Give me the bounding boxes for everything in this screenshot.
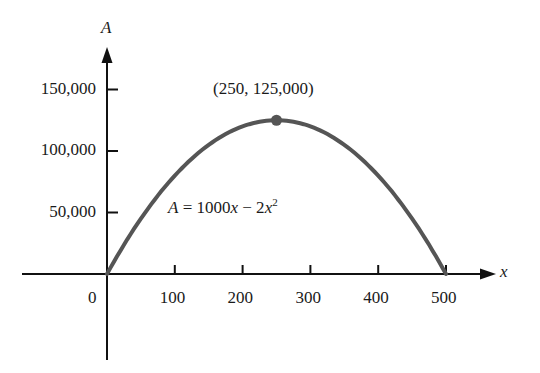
eq-x: x (230, 198, 238, 217)
origin-label: 0 (88, 288, 97, 308)
eq-a: A (168, 198, 178, 217)
chart-canvas (0, 0, 540, 373)
x-tick-label: 400 (363, 288, 389, 308)
peak-annotation: (250, 125,000) (213, 79, 314, 99)
vertex-point (271, 115, 282, 126)
x-tick-label: 300 (295, 288, 321, 308)
x-axis-arrow-icon (480, 269, 496, 280)
y-tick-label: 150,000 (41, 79, 96, 99)
y-tick-label: 100,000 (41, 140, 96, 160)
y-tick-label: 50,000 (49, 202, 96, 222)
y-axis-label: A (101, 18, 111, 38)
x-tick-label: 100 (160, 288, 186, 308)
equation-label: A = 1000x − 2x2 (168, 196, 278, 218)
x-tick-label: 200 (228, 288, 254, 308)
y-ticks (107, 90, 118, 213)
x-axis-label: x (500, 262, 508, 282)
eq-minus: − 2 (238, 198, 265, 217)
x-tick-label: 500 (431, 288, 457, 308)
y-axis-arrow-icon (102, 47, 113, 63)
eq-mid: = 1000 (178, 198, 230, 217)
x-ticks (175, 265, 446, 274)
eq-sup: 2 (272, 196, 278, 208)
